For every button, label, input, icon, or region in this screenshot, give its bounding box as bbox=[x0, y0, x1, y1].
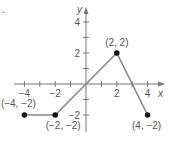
y-axis-label: y bbox=[76, 4, 83, 15]
x-tick-label: 2 bbox=[114, 88, 120, 99]
data-point bbox=[22, 112, 28, 118]
point-label: (2, 2) bbox=[105, 37, 128, 48]
data-point bbox=[145, 112, 151, 118]
y-tick-label: 4 bbox=[74, 17, 80, 28]
x-tick-label: −2 bbox=[49, 88, 61, 99]
data-point bbox=[114, 50, 120, 56]
x-tick-label: 4 bbox=[145, 88, 151, 99]
data-point bbox=[52, 112, 58, 118]
y-tick-label: 2 bbox=[74, 48, 80, 59]
y-tick-label: −2 bbox=[69, 110, 81, 121]
piecewise-graph: −4−224−224xy(−4, −2)(−2, −2)(2, 2)(4, −2… bbox=[0, 0, 171, 146]
point-label: (−4, −2) bbox=[1, 98, 36, 109]
x-axis-arrow-icon bbox=[158, 82, 165, 87]
x-axis-label: x bbox=[157, 88, 164, 99]
y-axis-arrow-icon bbox=[84, 7, 89, 14]
point-label: (4, −2) bbox=[132, 120, 161, 131]
point-label: (−2, −2) bbox=[46, 120, 81, 131]
